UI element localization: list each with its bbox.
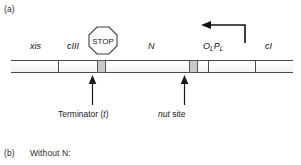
genome-map-diagram: xis cIII N cI OLPL STOP Terminator (t) <box>0 20 301 130</box>
nut-callout-label: nut site <box>158 109 185 119</box>
gene-label-xis: xis <box>30 41 41 51</box>
gene-label-ciii: cIII <box>67 41 79 51</box>
panel-b-label: (b) <box>4 148 15 158</box>
gene-boundary-tick-n-ol <box>208 60 209 73</box>
nut-callout-arrow-icon <box>180 75 189 105</box>
nut-callout-text: site <box>170 109 186 119</box>
terminator-callout-arrowhead <box>89 75 97 84</box>
terminator-callout-close: ) <box>106 109 109 119</box>
transcription-arrowhead <box>201 21 211 29</box>
terminator-site-box <box>97 60 106 73</box>
stop-sign-text: STOP <box>92 37 114 46</box>
terminator-callout-label: Terminator (t) <box>58 109 109 119</box>
terminator-callout-text: Terminator ( <box>58 109 103 119</box>
gene-boundary-tick-pl-ci <box>255 60 256 73</box>
nut-site-box <box>189 60 198 73</box>
promoter-subscript: L <box>220 45 224 52</box>
nut-callout-symbol: nut <box>158 109 170 119</box>
gene-label-n: N <box>148 41 155 51</box>
gene-label-ci: cI <box>265 41 272 51</box>
panel-a-label: (a) <box>4 4 15 14</box>
transcription-arrow-path <box>210 25 245 43</box>
panel-b-caption: Without N: <box>30 148 71 158</box>
dna-backbone-bar <box>11 60 293 73</box>
terminator-callout-arrow-icon <box>88 75 97 105</box>
stop-sign-icon: STOP <box>88 26 118 55</box>
transcription-arrow-icon <box>200 18 252 44</box>
gene-boundary-tick-xis-ciii <box>58 60 59 73</box>
nut-callout-arrowhead <box>181 75 189 84</box>
